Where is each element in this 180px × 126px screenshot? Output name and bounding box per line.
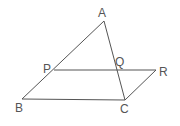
geometry-diagram: A B C P Q R	[0, 0, 180, 126]
label-a: A	[98, 6, 106, 20]
label-q: Q	[115, 55, 124, 69]
segment-ab	[22, 21, 104, 99]
segment-rc	[125, 70, 156, 100]
diagram-canvas: A B C P Q R	[0, 0, 180, 126]
label-c: C	[120, 102, 129, 116]
label-r: R	[159, 65, 168, 79]
label-p: P	[43, 62, 51, 76]
segment-bc	[22, 99, 125, 100]
label-b: B	[15, 101, 23, 115]
